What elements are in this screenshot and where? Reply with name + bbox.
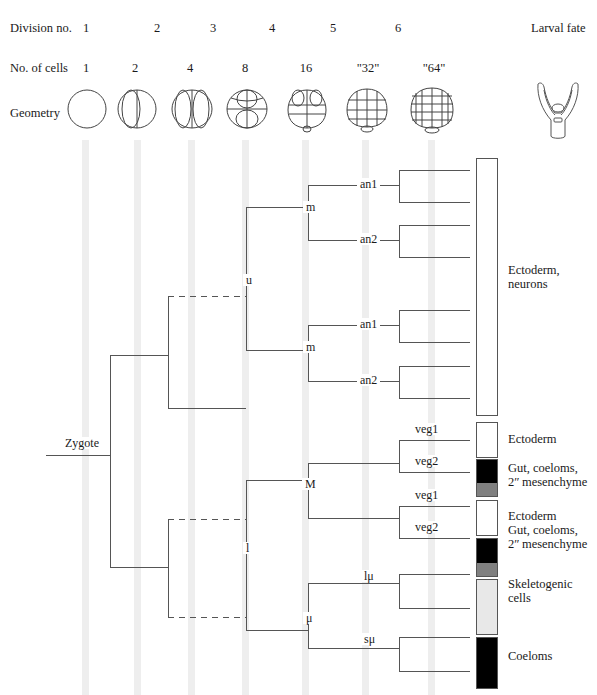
fate-label-skel-line-2: cells <box>508 591 531 605</box>
branch-m1-lower <box>308 240 399 241</box>
row-label-larval-fate: Larval fate <box>531 21 585 36</box>
tip-arm-an1a-top <box>399 170 470 171</box>
cell-count-32: "32" <box>351 61 385 76</box>
fate-label-skeletogenic: Skeletogenic cells <box>508 578 573 605</box>
branch-m2-upper <box>308 325 399 326</box>
embryo-8-cell-icon <box>225 88 269 130</box>
tip-arm-lmu-bottom <box>399 608 470 609</box>
fate-label-ectoderm-neurons: Ectoderm, neurons <box>508 264 560 291</box>
branch-div2-upper-dashed <box>168 296 246 297</box>
branch-div2-upper-lower <box>168 408 246 409</box>
fate-swatch-gut-2-sub <box>477 563 497 576</box>
node-label-l: l <box>243 542 252 554</box>
fate-label-gut-2: Gut, coeloms, 2ʺ mesenchyme <box>508 524 587 551</box>
tip-arm-an2a-bottom <box>399 257 470 258</box>
tip-label-lmu: lμ <box>361 570 377 582</box>
column-stripe-6 <box>362 140 369 695</box>
fate-swatch-ectoderm-1 <box>476 422 498 458</box>
column-stripe-7 <box>428 140 435 695</box>
tip-bracket-veg-b <box>399 506 400 538</box>
pluteus-larva-icon <box>528 80 588 142</box>
tip-arm-an2b-bottom <box>399 398 470 399</box>
cell-count-64: "64" <box>417 61 451 76</box>
branch-l-upper <box>246 480 308 481</box>
row-label-division: Division no. <box>10 21 72 36</box>
fate-label-gut-1: Gut, coeloms, 2ʺ mesenchyme <box>508 462 587 489</box>
branch-m1-upper <box>308 185 399 186</box>
tip-arm-lmu-top <box>399 574 470 575</box>
embryo-16-cell-icon <box>285 88 329 132</box>
column-stripe-1 <box>82 140 89 695</box>
fate-label-ectoderm-2: Ectoderm <box>508 510 557 524</box>
node-label-mu: μ <box>303 612 315 624</box>
row-label-cells: No. of cells <box>10 61 68 76</box>
cell-count-1: 1 <box>73 61 99 76</box>
tip-arm-veg1a <box>399 440 470 441</box>
fate-label-ectoderm-1: Ectoderm <box>508 433 557 447</box>
branch-div2-lower-lower-dashed <box>168 617 246 618</box>
embryo-2-cell-icon <box>116 88 158 130</box>
branch-u-lower <box>246 350 308 351</box>
row-label-geometry: Geometry <box>10 106 60 121</box>
fate-swatch-gut-1-sub <box>477 483 497 496</box>
fate-swatch-skeletogenic <box>476 579 498 635</box>
embryo-64-cell-icon <box>408 85 456 133</box>
tip-label-veg1-upper: veg1 <box>412 423 441 435</box>
tip-label-an1-lower: an1 <box>357 318 380 330</box>
cell-count-2: 2 <box>122 61 148 76</box>
fate-swatch-ectoderm-2 <box>476 500 498 536</box>
branch-div1-vertical <box>110 355 111 567</box>
node-label-zygote: Zygote <box>62 437 102 449</box>
fate-label-gut-1-line-1: Gut, coeloms, <box>508 461 578 475</box>
cell-count-8: 8 <box>232 61 258 76</box>
fate-swatch-gut-1 <box>476 459 498 497</box>
branch-u-upper <box>246 207 308 208</box>
cell-count-16: 16 <box>293 61 319 76</box>
branch-div2-lower-upper-dashed <box>168 519 246 520</box>
branch-div2-lower-vertical <box>168 519 169 617</box>
fate-label-gut-2-line-2: 2ʺ mesenchyme <box>508 537 587 551</box>
embryo-32-cell-icon <box>344 86 390 132</box>
branch-zygote-stem <box>46 455 110 456</box>
tip-arm-veg2b <box>399 538 470 539</box>
tip-arm-an1a-bottom <box>399 202 470 203</box>
fate-label-gut-2-line-1: Gut, coeloms, <box>508 523 578 537</box>
branch-div1-upper <box>110 355 168 356</box>
node-label-u: u <box>243 274 255 286</box>
division-no-3: 3 <box>204 21 222 36</box>
tip-arm-smu-bottom <box>399 671 470 672</box>
cell-count-4: 4 <box>177 61 203 76</box>
fate-label-gut-1-line-2: 2ʺ mesenchyme <box>508 475 587 489</box>
fate-label-line-2: neurons <box>508 277 548 291</box>
branch-div2-upper-vertical <box>168 296 169 408</box>
division-no-6: 6 <box>389 21 407 36</box>
tip-arm-an1b-top <box>399 310 470 311</box>
fate-swatch-coeloms <box>476 637 498 689</box>
lineage-diagram: Division no. 1 2 3 4 5 6 Larval fate No.… <box>0 0 597 695</box>
tip-arm-an1b-bottom <box>399 342 470 343</box>
fate-label-line-1: Ectoderm, <box>508 263 560 277</box>
branch-mu-lower <box>308 648 399 649</box>
tip-arm-veg2a <box>399 472 470 473</box>
tip-label-an2-upper: an2 <box>357 233 380 245</box>
division-no-5: 5 <box>324 21 342 36</box>
tip-bracket-an2a <box>399 225 400 257</box>
node-label-m-upper: m <box>303 201 318 213</box>
branch-M-upper <box>308 463 399 464</box>
fate-swatch-ectoderm-neurons <box>476 158 498 416</box>
tip-label-veg2-lower: veg2 <box>412 521 441 533</box>
tip-label-smu: sμ <box>361 633 378 645</box>
branch-M-lower <box>308 518 399 519</box>
tip-bracket-an2b <box>399 366 400 398</box>
fate-label-coeloms: Coeloms <box>508 650 552 664</box>
branch-mu-upper <box>308 583 399 584</box>
fate-label-skel-line-1: Skeletogenic <box>508 577 573 591</box>
division-no-2: 2 <box>148 21 166 36</box>
embryo-1-cell-icon <box>66 88 108 130</box>
tip-bracket-an1b <box>399 310 400 342</box>
tip-arm-veg1b <box>399 506 470 507</box>
tip-bracket-an1a <box>399 170 400 202</box>
division-no-4: 4 <box>263 21 281 36</box>
tip-arm-smu-top <box>399 637 470 638</box>
tip-arm-an2b-top <box>399 366 470 367</box>
